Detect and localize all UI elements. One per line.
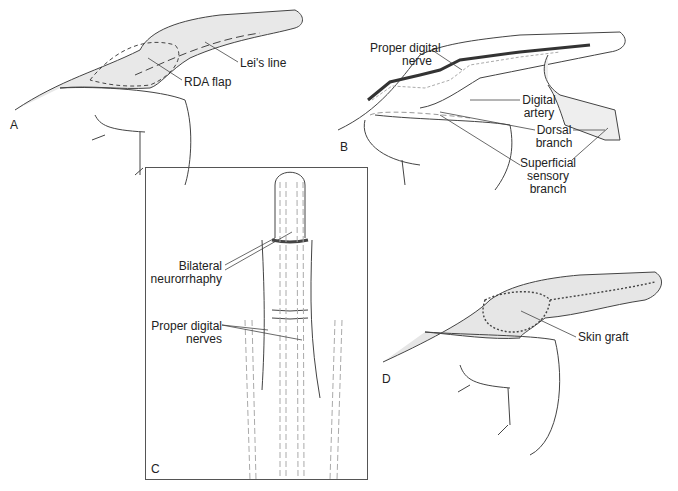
panel-d-drawing — [383, 272, 662, 455]
panel-letter-b: B — [340, 140, 348, 154]
label-leis-line: Lei's line — [240, 57, 286, 70]
panel-letter-d: D — [382, 372, 391, 386]
label-dorsal-branch: Dorsal branch — [532, 124, 576, 150]
label-proper-digital-nerve: Proper digital nerve — [370, 42, 432, 68]
figure: A Lei's line RDA flap B Proper digital n… — [0, 0, 678, 491]
label-skin-graft: Skin graft — [578, 331, 629, 344]
panel-letter-a: A — [10, 118, 18, 132]
panel-letter-c: C — [151, 462, 160, 476]
label-bilateral-neurorrhaphy: Bilateral neurorrhaphy — [148, 260, 222, 286]
panel-a-drawing — [15, 10, 303, 185]
label-proper-digital-nerves: Proper digital nerves — [148, 320, 222, 346]
label-rda-flap: RDA flap — [184, 76, 231, 89]
label-digital-artery: Digital artery — [518, 94, 560, 120]
label-superficial-sensory-branch: Superficial sensory branch — [520, 157, 576, 196]
